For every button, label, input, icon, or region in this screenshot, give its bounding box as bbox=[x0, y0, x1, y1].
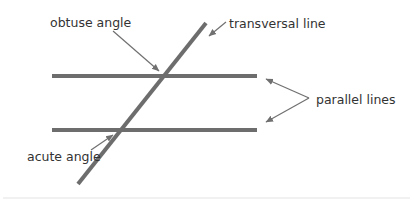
parallel-lines-arrow-top bbox=[266, 79, 309, 98]
parallel-lines-label: parallel lines bbox=[316, 92, 396, 107]
obtuse-angle-label: obtuse angle bbox=[50, 15, 132, 30]
transversal-line-arrow bbox=[209, 22, 226, 36]
acute-angle-label: acute angle bbox=[27, 149, 101, 164]
obtuse-angle-arrow bbox=[113, 31, 159, 71]
transversal-diagram: obtuse angle transversal line parallel l… bbox=[0, 0, 412, 204]
transversal-line-label: transversal line bbox=[229, 16, 326, 31]
parallel-lines-arrow-bottom bbox=[266, 98, 309, 122]
